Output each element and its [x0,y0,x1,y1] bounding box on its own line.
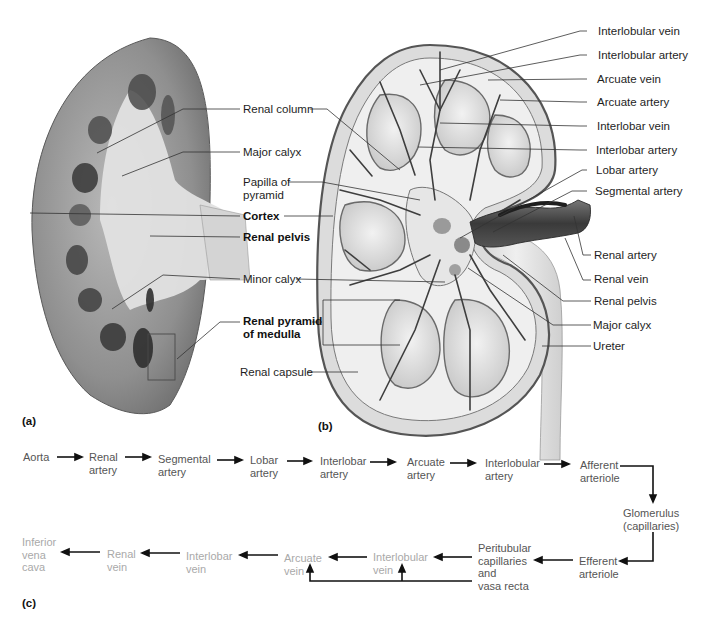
flow-node-afferent-arteriole: Afferent arteriole [580,459,620,484]
label-interlobar-artery: Interlobar artery [596,144,677,157]
label-segmental-artery: Segmental artery [595,185,683,198]
label-ureter: Ureter [593,340,625,353]
panel-label-b: (b) [318,420,333,432]
label-minor-calyx: Minor calyx [243,273,301,286]
label-papilla-of-pyramid-line2: pyramid [243,189,284,202]
label-renal-column: Renal column [243,103,313,116]
flow-node-segmental-artery: Segmental artery [158,453,211,478]
flow-node-interlobular-vein: Interlobular vein [373,551,428,576]
label-arcuate-artery: Arcuate artery [597,96,669,109]
label-papilla-of-pyramid-line1: Papilla of [243,176,290,189]
kidney-anatomy-figure: (a) (b) (c) Renal column Major calyx Pap… [0,0,705,621]
panel-label-a: (a) [22,415,36,427]
label-interlobar-vein: Interlobar vein [597,120,670,133]
label-lobar-artery: Lobar artery [596,164,658,177]
label-renal-pyramid-line2: of medulla [243,328,301,341]
label-renal-capsule: Renal capsule [240,366,313,379]
flow-node-interlobular-artery: Interlobular artery [485,457,540,482]
label-arcuate-vein: Arcuate vein [597,73,661,86]
drawn-kidney [317,45,590,460]
photo-kidney [32,38,250,414]
panel-label-c: (c) [22,597,36,609]
flow-node-lobar-artery: Lobar artery [250,454,278,479]
label-interlobular-artery: Interlobular artery [598,49,688,62]
flow-node-aorta: Aorta [23,451,49,464]
label-renal-pelvis-right: Renal pelvis [594,295,657,308]
kidney-illustrations [0,0,705,621]
flow-node-renal-vein: Renal vein [107,548,136,573]
flow-node-arcuate-artery: Arcuate artery [407,456,445,481]
flow-node-inferior-vena-cava: Inferior vena cava [22,536,56,574]
label-renal-pelvis-left: Renal pelvis [243,231,310,244]
flow-node-glomerulus: Glomerulus (capillaries) [623,507,679,532]
label-major-calyx-right: Major calyx [593,319,651,332]
label-renal-pyramid-line1: Renal pyramid [243,315,322,328]
flow-node-renal-artery: Renal artery [89,451,118,476]
flow-node-arcuate-vein: Arcuate vein [284,552,322,577]
flow-node-interlobar-artery: Interlobar artery [320,455,366,480]
flow-node-efferent-arteriole: Efferent arteriole [579,555,619,580]
flow-node-peritubular-capillaries: Peritubular capillaries and vasa recta [478,542,531,592]
label-renal-artery: Renal artery [594,249,657,262]
label-interlobular-vein: Interlobular vein [598,25,680,38]
label-renal-vein: Renal vein [594,273,648,286]
label-cortex: Cortex [243,210,279,223]
label-major-calyx-left: Major calyx [243,146,301,159]
flow-node-interlobar-vein: Interlobar vein [186,550,232,575]
